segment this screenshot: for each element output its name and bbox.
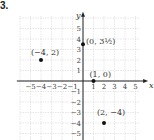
y-tick-label: −5	[71, 130, 81, 138]
y-tick-label: 1	[77, 67, 81, 75]
data-point	[102, 121, 106, 125]
x-tick-label: 2	[102, 83, 106, 91]
y-tick-label: 2	[77, 57, 81, 65]
x-tick-label: −5	[25, 83, 35, 91]
x-tick-label: −2	[57, 83, 67, 91]
x-tick-label: −4	[36, 83, 47, 91]
point-label: (1, 0)	[90, 70, 112, 79]
data-point	[92, 79, 96, 83]
y-tick-label: 5	[77, 25, 81, 33]
point-label: (0, 3½)	[86, 37, 115, 46]
y-tick-label: −3	[71, 109, 81, 117]
y-tick-label: −2	[71, 99, 81, 107]
y-tick-label: −4	[71, 120, 82, 128]
y-axis-arrow-icon	[81, 12, 85, 17]
x-axis-label: x	[149, 81, 154, 90]
point-label: (2, −4)	[97, 108, 125, 117]
x-tick-label: 1	[91, 83, 95, 91]
x-axis-arrow-icon	[143, 79, 148, 83]
data-point	[81, 42, 85, 46]
coordinate-plane: x y −5−4−3−2−11234554321−1−2−3−4−5 (−4, …	[0, 0, 154, 140]
y-axis-label: y	[75, 11, 81, 20]
x-tick-label: 3	[112, 83, 116, 91]
x-tick-label: 4	[123, 83, 128, 91]
data-point	[39, 58, 43, 62]
y-tick-label: −1	[71, 88, 81, 96]
x-tick-label: 5	[133, 83, 137, 91]
y-tick-label: 4	[77, 36, 82, 44]
y-tick-label: 3	[77, 46, 81, 54]
point-label: (−4, 2)	[31, 48, 59, 57]
x-tick-label: −3	[46, 83, 56, 91]
